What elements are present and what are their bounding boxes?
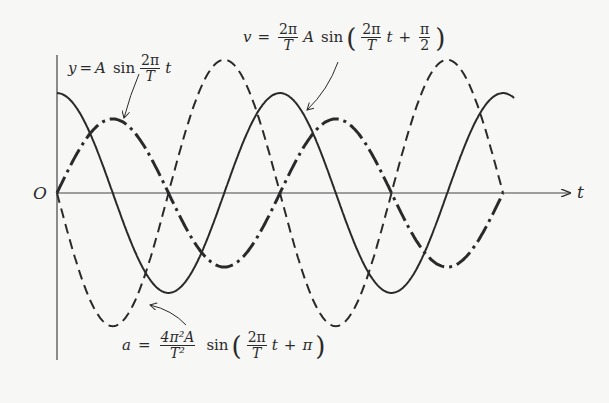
function: sin	[321, 30, 343, 45]
amplitude: A	[95, 61, 106, 76]
plus: +	[398, 30, 411, 45]
numerator: 4π²A	[160, 330, 196, 346]
denominator: T	[140, 69, 160, 84]
denominator: T²	[160, 346, 196, 361]
close-paren: )	[315, 333, 325, 359]
lhs: a	[122, 338, 131, 353]
denominator: T	[247, 346, 267, 361]
plus: +	[284, 338, 297, 353]
close-paren: )	[435, 25, 445, 51]
t-axis-label: t	[577, 184, 584, 201]
amplitude: A	[303, 30, 314, 45]
denominator: T	[278, 38, 298, 53]
numerator: 2π	[361, 22, 381, 38]
coefficient-fraction: 4π²A T²	[160, 330, 196, 361]
variable: t	[165, 61, 171, 76]
velocity-label: v = 2π T A sin ( 2π T t + π 2 )	[243, 22, 445, 53]
variable: t	[386, 30, 392, 45]
velocity-pointer-arrow	[307, 62, 338, 110]
variable: t	[272, 338, 278, 353]
function: sin	[206, 338, 228, 353]
coefficient-fraction: 2π T	[278, 22, 298, 53]
fraction: 2π T	[140, 53, 160, 84]
open-paren: (	[346, 25, 356, 51]
numerator: 2π	[278, 22, 298, 38]
acceleration-label: a = 4π²A T² sin ( 2π T t + π )	[122, 330, 325, 361]
displacement-label: y = A sin 2π T t	[68, 53, 171, 84]
fraction: 2π T	[247, 330, 267, 361]
origin-label: O	[33, 185, 47, 202]
function: sin	[113, 61, 135, 76]
numerator: 2π	[247, 330, 267, 346]
fraction: 2π T	[361, 22, 381, 53]
phase-fraction: π 2	[419, 22, 430, 53]
phase: π	[302, 338, 312, 353]
equals: =	[257, 30, 270, 45]
lhs: v	[243, 30, 251, 45]
numerator: π	[419, 22, 430, 38]
open-paren: (	[232, 333, 242, 359]
equals: =	[79, 61, 92, 76]
numerator: 2π	[140, 53, 160, 69]
denominator: T	[361, 38, 381, 53]
equals: =	[138, 338, 151, 353]
acceleration-pointer-arrow	[150, 305, 186, 325]
lhs: y	[68, 61, 76, 76]
denominator: 2	[419, 38, 430, 53]
